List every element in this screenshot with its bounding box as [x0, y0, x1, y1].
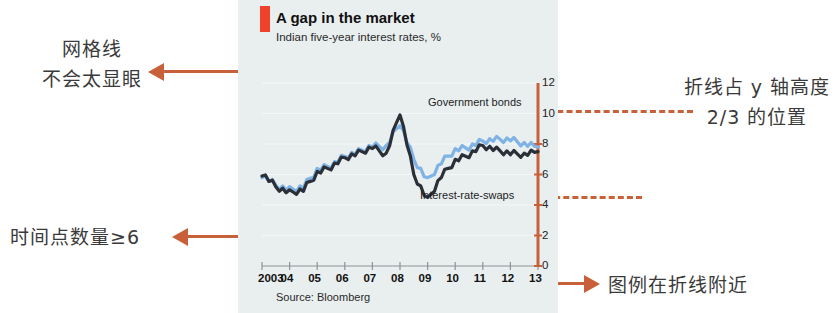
- annotation-gridline-line1: 网格线: [22, 34, 162, 64]
- annotation-timepoints-text: 时间点数量≥6: [10, 222, 180, 252]
- series-label-government-bonds: Government bonds: [428, 96, 522, 108]
- annotation-ratio: 折线占 y 轴高度 2/3 的位置: [672, 72, 840, 132]
- y-tick-label: 2: [542, 229, 560, 241]
- x-tick-label: 08: [391, 272, 404, 284]
- x-tick-label: 04: [281, 272, 294, 284]
- x-tick-label: 06: [336, 272, 349, 284]
- y-tick-label: 0: [542, 259, 560, 271]
- y-tick-label: 12: [542, 76, 560, 88]
- chart-plot-area: [238, 0, 558, 313]
- timepoints-arrow-head-icon: [172, 228, 188, 246]
- chart-panel: A gap in the market Indian five-year int…: [238, 0, 558, 313]
- x-tick-label: 11: [474, 272, 486, 284]
- gridline-arrow-head-icon: [148, 63, 164, 81]
- annotation-legend: 图例在折线附近: [608, 270, 808, 300]
- series-label-interest-rate-swaps: Interest-rate-swaps: [420, 189, 514, 201]
- series-line-government-bonds: [262, 126, 538, 192]
- annotation-ratio-line1: 折线占 y 轴高度: [672, 72, 840, 102]
- x-tick-label: 13: [529, 272, 542, 284]
- x-tick-label: 09: [419, 272, 432, 284]
- legend-arrow-head-icon: [584, 275, 600, 293]
- annotation-gridline-line2: 不会太显眼: [22, 64, 162, 94]
- annotation-legend-text: 图例在折线附近: [608, 270, 808, 300]
- annotation-gridline: 网格线 不会太显眼: [22, 34, 162, 94]
- x-tick-label: 05: [308, 272, 321, 284]
- annotation-timepoints: 时间点数量≥6: [10, 222, 180, 252]
- x-tick-label: 07: [363, 272, 376, 284]
- y-tick-label: 6: [542, 168, 560, 180]
- y-tick-label: 8: [542, 137, 560, 149]
- x-tick-label: 12: [501, 272, 514, 284]
- y-tick-label: 4: [542, 198, 560, 210]
- annotation-ratio-line2: 2/3 的位置: [672, 102, 840, 132]
- x-tick-label: 10: [446, 272, 459, 284]
- y-tick-label: 10: [542, 107, 560, 119]
